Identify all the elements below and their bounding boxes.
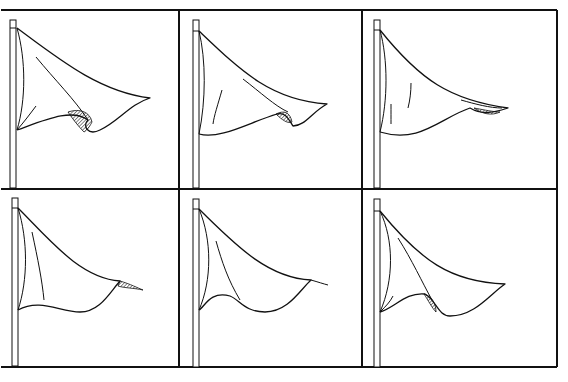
flag-icon [380,30,508,135]
flag-fold-line [18,208,26,310]
flagpole-icon [374,199,380,367]
flag-icon [17,28,150,132]
flag-icon [380,211,505,316]
flagpole-icon [374,20,380,188]
panel-5 [193,199,328,367]
flag-outline [199,31,327,135]
flag-shaded-fold [424,294,436,312]
flagpole-icon [193,199,199,367]
flagpole-icon [10,20,16,188]
panels-group [10,20,508,367]
flag-fold-line [32,232,44,300]
flag-shaded-fold [118,281,143,290]
flag-fold-line [243,79,288,112]
flag-sequence-figure: Six stages of a triangular pennant flag … [0,0,568,382]
flag-fold-line [17,28,24,130]
panel-4 [12,198,143,366]
flag-shaded-fold [68,110,92,132]
panel-2 [193,20,327,188]
panel-1 [10,20,150,188]
flag-fold-line [380,211,391,312]
flag-fold-line [199,209,209,310]
flag-fold-line [216,241,240,300]
panel-3 [374,20,508,188]
flag-fold-line [213,90,222,124]
figure-canvas [0,0,568,382]
flag-outline [380,211,505,316]
flag-fold-line [380,30,386,132]
flag-shaded-fold [276,112,292,122]
flag-outline [380,30,508,135]
flag-icon [199,31,327,135]
flagpole-icon [12,198,18,366]
flag-fold-line [199,31,204,134]
flag-fold-line [408,83,411,108]
flag-outline [199,209,311,312]
flag-fold-line [398,238,432,300]
flag-icon [199,209,328,312]
flagpole-icon [193,20,199,188]
panel-grid [1,10,557,367]
flag-fold-line [461,100,502,108]
panel-6 [374,199,505,367]
flag-icon [18,208,143,312]
flag-fold-line [311,280,328,285]
flag-outline [18,208,120,312]
